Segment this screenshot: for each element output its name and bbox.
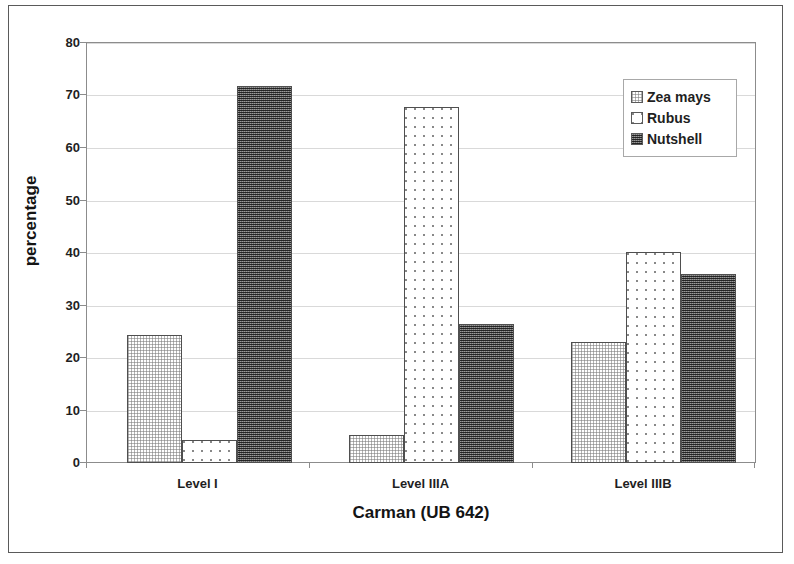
x-tickmark-1 xyxy=(309,463,310,468)
x-tickmark-3 xyxy=(754,463,755,468)
y-tickmark-80 xyxy=(80,42,86,43)
y-axis-title: percentage xyxy=(21,141,41,301)
x-tick-label-level-iiib: Level IIIB xyxy=(532,476,754,491)
legend-item-nutshell: Nutshell xyxy=(631,128,728,149)
x-tickmark-0 xyxy=(86,463,87,468)
y-tick-label-50: 50 xyxy=(40,194,80,207)
legend-item-zea-mays: Zea mays xyxy=(631,86,728,107)
y-tick-label-70: 70 xyxy=(40,88,80,101)
legend-swatch-nutshell-icon xyxy=(631,133,643,145)
y-tick-label-0: 0 xyxy=(40,456,80,469)
y-tickmark-20 xyxy=(80,357,86,358)
x-tickmark-2 xyxy=(532,463,533,468)
legend: Zea mays Rubus Nutshell xyxy=(623,79,737,157)
x-axis-title: Carman (UB 642) xyxy=(86,503,756,523)
bar-zea-mays-level-i xyxy=(127,335,182,463)
bar-nutshell-level-iiia xyxy=(459,324,514,463)
y-tick-label-40: 40 xyxy=(40,246,80,259)
legend-item-rubus: Rubus xyxy=(631,107,728,128)
legend-label-rubus: Rubus xyxy=(647,111,691,125)
y-tick-label-80: 80 xyxy=(40,36,80,49)
x-axis-tickmarks xyxy=(86,463,756,469)
x-axis-labels: Level I Level IIIA Level IIIB xyxy=(86,476,756,498)
legend-label-nutshell: Nutshell xyxy=(647,132,702,146)
bar-zea-mays-level-iiib xyxy=(571,342,626,463)
y-tick-label-30: 30 xyxy=(40,299,80,312)
bar-nutshell-level-iiib xyxy=(681,274,736,463)
bar-rubus-level-iiib xyxy=(626,252,681,463)
legend-swatch-zea-mays-icon xyxy=(631,91,643,103)
bar-chart: 80 70 60 50 40 30 20 10 0 percentage xyxy=(9,6,784,554)
y-tickmark-60 xyxy=(80,147,86,148)
y-tickmark-10 xyxy=(80,410,86,411)
x-tick-label-level-iiia: Level IIIA xyxy=(309,476,532,491)
y-tickmark-30 xyxy=(80,305,86,306)
y-tick-label-10: 10 xyxy=(40,404,80,417)
bar-rubus-level-i xyxy=(182,440,237,463)
y-tick-label-20: 20 xyxy=(40,351,80,364)
figure-border: 80 70 60 50 40 30 20 10 0 percentage xyxy=(8,5,783,553)
bar-nutshell-level-i xyxy=(237,86,292,463)
bar-zea-mays-level-iiia xyxy=(349,435,404,463)
y-tick-label-60: 60 xyxy=(40,141,80,154)
y-tickmark-50 xyxy=(80,200,86,201)
y-tickmark-40 xyxy=(80,252,86,253)
legend-swatch-rubus-icon xyxy=(631,112,643,124)
y-tickmark-70 xyxy=(80,94,86,95)
x-tick-label-level-i: Level I xyxy=(86,476,309,491)
legend-label-zea-mays: Zea mays xyxy=(647,90,711,104)
bar-rubus-level-iiia xyxy=(404,107,459,463)
